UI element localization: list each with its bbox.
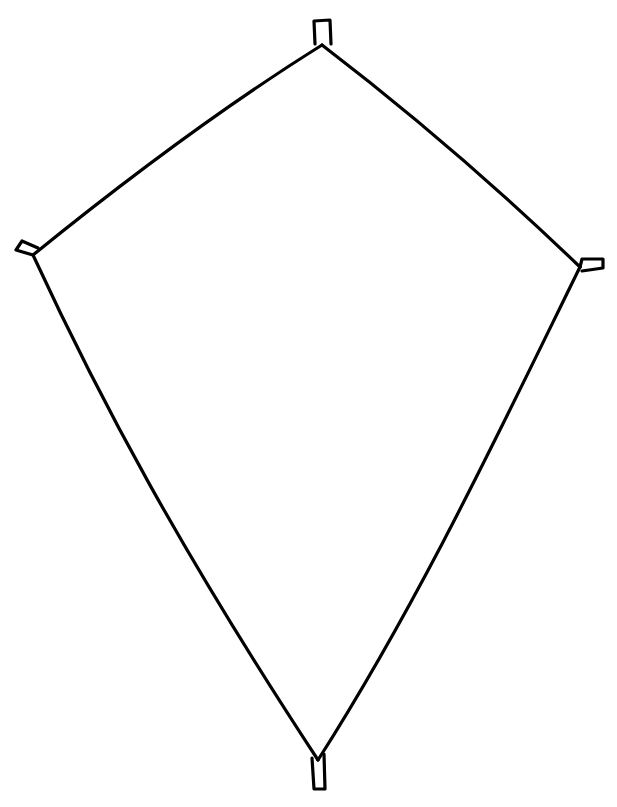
kite-drawing [0,0,617,807]
kite-tab-top [314,20,331,44]
kite-edge-top-right [322,45,580,267]
kite-edge-right-bottom [318,267,580,760]
kite-edge-left-bottom [33,255,318,760]
kite-tab-right [580,259,603,271]
kite-edge-top-left [33,45,322,255]
